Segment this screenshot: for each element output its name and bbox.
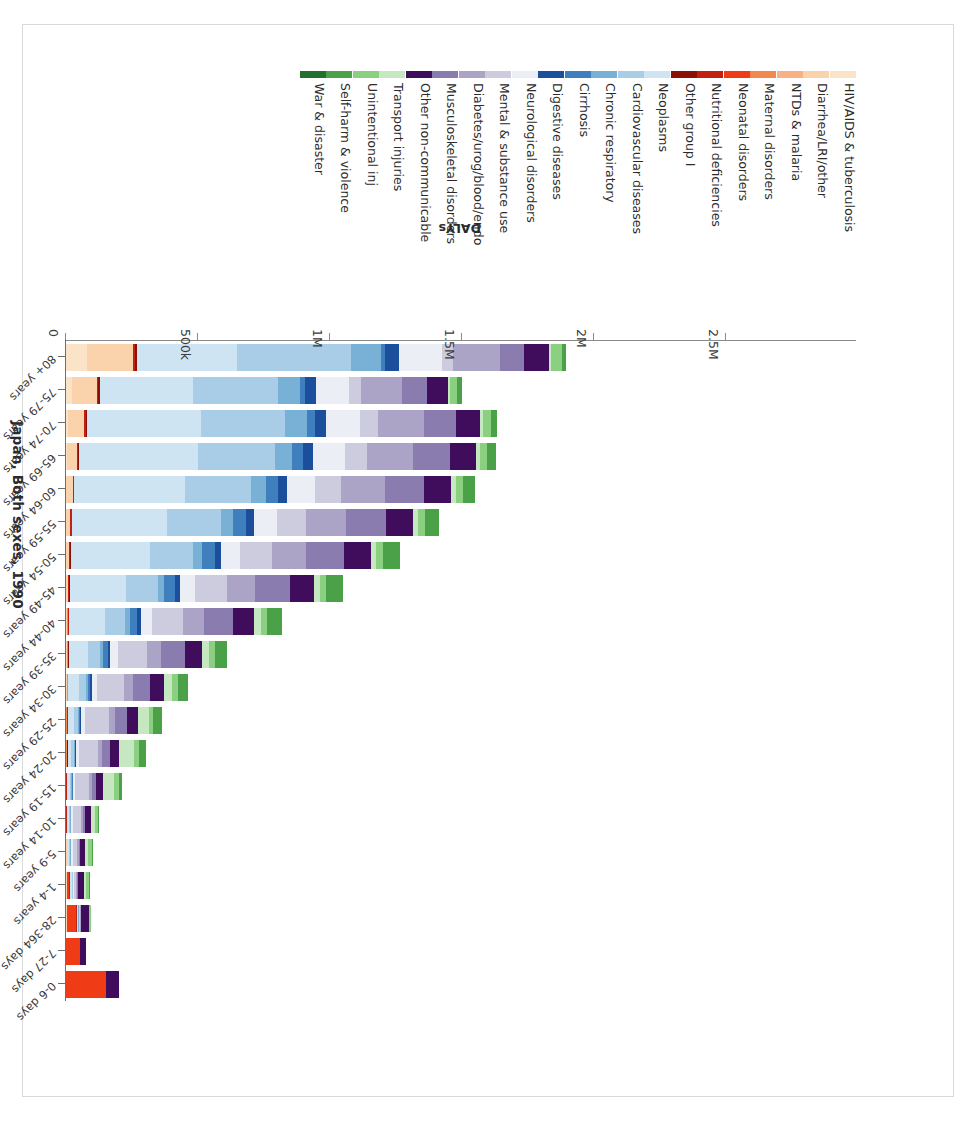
legend: HIV/AIDS & tuberculosisDiarrhea/LRI/othe…: [66, 71, 856, 321]
bar-segment: [450, 443, 476, 469]
bar-row: [66, 641, 856, 667]
bar-row: [66, 905, 856, 931]
legend-item[interactable]: War & disaster: [300, 71, 326, 321]
bar-segment: [349, 377, 362, 403]
y-axis-tick: [58, 918, 66, 919]
bar-segment: [367, 443, 413, 469]
legend-item[interactable]: Musculoskeletal disorders: [433, 71, 459, 321]
bar-segment: [89, 773, 92, 799]
bar-segment: [68, 641, 69, 667]
legend-swatch: [565, 71, 591, 78]
legend-item[interactable]: Self-harm & violence: [327, 71, 353, 321]
bar-segment: [164, 575, 175, 601]
bar-segment: [89, 872, 90, 898]
bar-segment: [75, 773, 89, 799]
legend-item[interactable]: Unintentional inj: [353, 71, 379, 321]
bar-segment: [66, 839, 67, 865]
bar-segment: [67, 839, 68, 865]
legend-swatch: [486, 71, 512, 78]
bar-segment: [138, 707, 149, 733]
legend-item[interactable]: Other group I: [671, 71, 697, 321]
legend-item[interactable]: Cirrhosis: [565, 71, 591, 321]
bar-segment: [92, 773, 96, 799]
bar-segment: [77, 839, 79, 865]
bar-segment: [87, 410, 201, 436]
bar-segment: [78, 872, 84, 898]
x-axis-tick: [725, 333, 726, 341]
y-axis-tick: [58, 621, 66, 622]
bar-segment: [76, 740, 79, 766]
legend-label: Neonatal disorders: [736, 83, 751, 201]
bar-segment: [89, 905, 91, 931]
bar-segment: [255, 575, 290, 601]
bar-segment: [110, 740, 120, 766]
bar-segment: [71, 740, 73, 766]
legend-label: Nutritional deficiencies: [710, 83, 725, 227]
bar-segment: [240, 542, 272, 568]
legend-item[interactable]: Maternal disorders: [751, 71, 777, 321]
y-axis-tick: [58, 588, 66, 589]
legend-item[interactable]: Digestive diseases: [539, 71, 565, 321]
bar-segment: [80, 938, 81, 964]
legend-item[interactable]: Diarrhea/LRI/other: [804, 71, 830, 321]
legend-swatch: [459, 71, 485, 78]
bar-segment: [251, 476, 266, 502]
bar-segment: [77, 872, 78, 898]
bar-segment: [254, 509, 277, 535]
legend-item[interactable]: Nutritional deficiencies: [698, 71, 724, 321]
x-axis-tick: [329, 333, 330, 341]
legend-item[interactable]: Neoplasms: [645, 71, 671, 321]
bar-segment: [124, 674, 134, 700]
bar-row: [66, 806, 856, 832]
legend-item[interactable]: Chronic respiratory: [592, 71, 618, 321]
bar-segment: [68, 575, 69, 601]
bar-segment: [73, 773, 74, 799]
bar-segment: [66, 344, 87, 370]
bar-segment: [277, 509, 307, 535]
bar-segment: [185, 641, 202, 667]
bar-segment: [69, 542, 70, 568]
bar-segment: [66, 872, 67, 898]
bar-segment: [81, 905, 89, 931]
bar-segment: [73, 806, 81, 832]
legend-item[interactable]: Cardiovascular diseases: [618, 71, 644, 321]
bar-segment: [292, 443, 303, 469]
bar-segment: [75, 740, 76, 766]
bar-segment: [385, 344, 399, 370]
legend-item[interactable]: NTDs & malaria: [777, 71, 803, 321]
legend-item[interactable]: Transport injuries: [380, 71, 406, 321]
bar-segment: [70, 839, 71, 865]
bar-segment: [70, 773, 72, 799]
legend-item[interactable]: HIV/AIDS & tuberculosis: [830, 71, 856, 321]
bar-segment: [81, 707, 85, 733]
plot-area: [66, 341, 856, 1001]
bar-segment: [66, 971, 106, 997]
bar-segment: [66, 740, 67, 766]
legend-item[interactable]: Mental & substance use: [486, 71, 512, 321]
legend-item[interactable]: Neonatal disorders: [724, 71, 750, 321]
legend-item[interactable]: Diabetes/urog/blood/endo: [459, 71, 485, 321]
legend-label: Other non-communicable: [418, 83, 433, 242]
bar-segment: [278, 377, 300, 403]
bar-segment: [67, 641, 68, 667]
bar-segment: [202, 641, 209, 667]
bar-row: [66, 938, 856, 964]
legend-swatch: [671, 71, 697, 78]
y-axis-tick: [58, 522, 66, 523]
bar-segment: [98, 377, 100, 403]
bar-row: [66, 971, 856, 997]
bar-segment: [361, 377, 402, 403]
legend-label: Cardiovascular diseases: [630, 83, 645, 234]
bar-segment: [66, 641, 67, 667]
legend-swatch: [300, 71, 326, 78]
bar-segment: [67, 905, 77, 931]
bar-segment: [80, 707, 81, 733]
bar-segment: [227, 575, 255, 601]
x-axis-tick-label: 500k: [178, 329, 193, 360]
bar-segment: [150, 542, 194, 568]
legend-swatch: [618, 71, 644, 78]
bar-segment: [73, 872, 74, 898]
legend-item[interactable]: Neurological disorders: [512, 71, 538, 321]
legend-item[interactable]: Other non-communicable: [406, 71, 432, 321]
bar-segment: [141, 608, 152, 634]
